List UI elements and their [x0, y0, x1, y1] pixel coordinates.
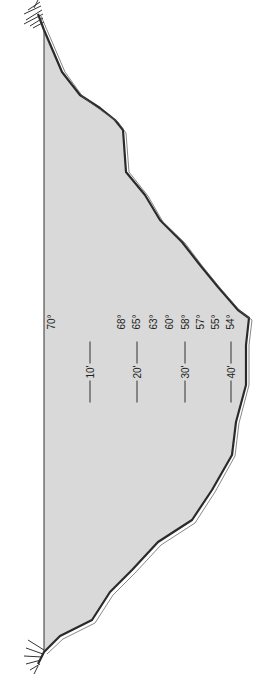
depth-tick-line [136, 341, 137, 363]
temperature-label: 58° [180, 314, 191, 329]
depth-label: 30' [180, 363, 191, 380]
shore-grass-top-icon [24, 0, 44, 28]
depth-tick-line [136, 381, 137, 403]
depth-label: 40' [226, 363, 237, 380]
temperature-label: 68° [116, 314, 127, 329]
surface-temperature-label: 70° [46, 314, 57, 329]
temperature-label: 55° [210, 314, 221, 329]
depth-tick-line [89, 341, 90, 363]
depth-marker-30: 30' [180, 341, 191, 402]
temperature-label: 63° [148, 314, 159, 329]
temperature-label: 65° [131, 314, 142, 329]
shore-grass-bottom-icon [24, 640, 44, 674]
temperature-label: 60° [164, 314, 175, 329]
lake-cross-section-shape [0, 0, 259, 674]
lake-water-fill [44, 30, 249, 652]
depth-tick-line [89, 381, 90, 403]
depth-marker-10: 10' [85, 341, 96, 402]
depth-label: 20' [132, 363, 143, 380]
depth-label: 10' [85, 363, 96, 380]
depth-marker-40: 40' [226, 341, 237, 402]
temperature-label: 54° [225, 314, 236, 329]
temperature-label: 57° [195, 314, 206, 329]
depth-tick-line [230, 341, 231, 363]
depth-tick-line [184, 341, 185, 363]
depth-tick-line [230, 381, 231, 403]
depth-marker-20: 20' [132, 341, 143, 402]
depth-tick-line [184, 381, 185, 403]
